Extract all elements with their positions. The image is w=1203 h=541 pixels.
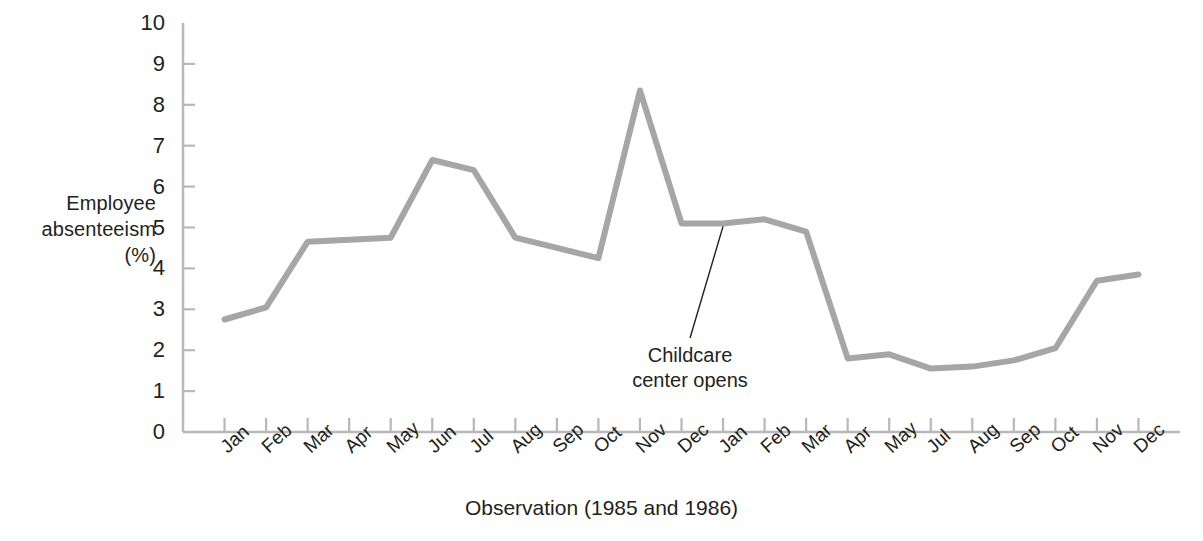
- chart-figure: Employee absenteeism (%) 012345678910 Ja…: [0, 0, 1203, 541]
- y-tick-label: 8: [135, 94, 165, 116]
- annotation-leader-line: [690, 226, 723, 338]
- y-tick-label: 4: [135, 257, 165, 279]
- data-line-group: [225, 91, 1139, 369]
- y-tick-label: 2: [135, 339, 165, 361]
- y-tick-label: 6: [135, 176, 165, 198]
- y-tick-label: 1: [135, 380, 165, 402]
- plot-area: [0, 0, 1203, 541]
- annotation-line-2: center opens: [580, 368, 800, 393]
- y-tick-label: 5: [135, 217, 165, 239]
- y-tick-marks: [183, 64, 195, 391]
- series-line-absenteeism: [225, 91, 1139, 369]
- y-tick-label: 3: [135, 298, 165, 320]
- y-tick-label: 7: [135, 135, 165, 157]
- y-tick-label: 9: [135, 53, 165, 75]
- x-axis-title: Observation (1985 and 1986): [0, 496, 1203, 520]
- annotation-childcare-center-opens: Childcare center opens: [580, 343, 800, 393]
- y-tick-label: 0: [135, 421, 165, 443]
- annotation-leader: [690, 226, 723, 338]
- annotation-line-1: Childcare: [580, 343, 800, 368]
- y-tick-label: 10: [135, 12, 165, 34]
